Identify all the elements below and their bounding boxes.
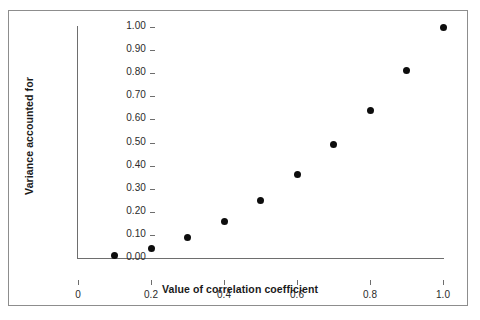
y-tick-label: 0.50 — [126, 136, 146, 147]
data-point — [330, 141, 337, 148]
y-tick: 0.00 — [150, 258, 155, 259]
y-tick: 0.30 — [150, 189, 155, 190]
y-tick: 0.60 — [150, 119, 155, 120]
y-tick-label: 1.00 — [126, 20, 146, 31]
y-tick-label: 0.00 — [126, 251, 146, 262]
y-tick-label: 0.70 — [126, 89, 146, 100]
y-tick: 0.50 — [150, 143, 155, 144]
y-tick: 0.40 — [150, 166, 155, 167]
y-tick-label: 0.40 — [126, 159, 146, 170]
y-tick-label: 0.90 — [126, 43, 146, 54]
data-point — [148, 245, 155, 252]
data-point — [221, 218, 228, 225]
y-tick-label: 0.30 — [126, 182, 146, 193]
data-point — [403, 67, 410, 74]
data-point — [294, 171, 301, 178]
data-point — [184, 234, 191, 241]
y-tick-label: 0.20 — [126, 205, 146, 216]
y-tick: 0.10 — [150, 235, 155, 236]
y-tick-label: 0.80 — [126, 66, 146, 77]
data-point — [257, 197, 264, 204]
y-tick: 0.80 — [150, 73, 155, 74]
y-tick-label: 0.10 — [126, 228, 146, 239]
y-tick: 0.20 — [150, 212, 155, 213]
chart-figure: 0.000.100.200.300.400.500.600.700.800.90… — [0, 0, 480, 320]
y-tick-label: 0.60 — [126, 112, 146, 123]
data-point — [440, 24, 447, 31]
plot-area: 0.000.100.200.300.400.500.600.700.800.90… — [78, 27, 443, 258]
y-tick: 1.00 — [150, 27, 155, 28]
x-axis-title: Value of correlation coefficient — [0, 283, 480, 295]
y-tick: 0.70 — [150, 96, 155, 97]
y-tick: 0.90 — [150, 50, 155, 51]
y-axis-title: Variance accounted for — [23, 36, 35, 236]
data-point — [367, 107, 374, 114]
